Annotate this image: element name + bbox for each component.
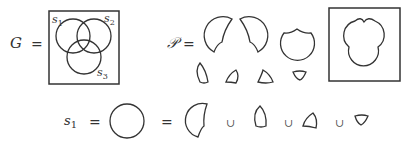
- piece-s2-only: [240, 17, 268, 52]
- piece-s3-only: [281, 29, 315, 60]
- piece-s1-s2-s3: [293, 71, 306, 80]
- piece-s2-s3: [258, 70, 273, 83]
- bottom-piece-s1-s3: [303, 113, 317, 128]
- bottom-piece-s1-s2-s3: [355, 115, 368, 125]
- union-outline: [329, 8, 400, 81]
- bottom-piece-s1-only: [185, 103, 207, 137]
- venn-diagram-g: [49, 11, 119, 84]
- piece-s1-s2: [197, 63, 208, 83]
- piece-s1-only: [204, 17, 232, 52]
- piece-s1-s3: [226, 70, 238, 83]
- bottom-circle-s1: [110, 104, 144, 138]
- bottom-piece-s1-s2: [255, 106, 266, 127]
- diagram-canvas: [0, 0, 412, 146]
